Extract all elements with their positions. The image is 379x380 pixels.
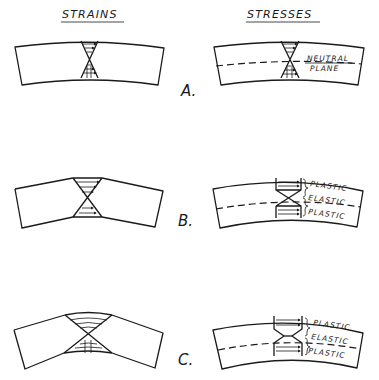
plane-label: PLANE — [310, 64, 339, 73]
row-label-a: A. — [180, 82, 196, 100]
row-a-stresses: NEUTRAL PLANE — [214, 41, 364, 85]
row-b-strains — [15, 178, 163, 228]
row-b-stresses: PLASTIC ELASTIC PLASTIC — [213, 178, 363, 228]
row-label-b: B. — [178, 212, 193, 230]
neutral-label: NEUTRAL — [307, 54, 349, 63]
header-strains: STRAINS — [61, 8, 124, 22]
elastic-label: ELASTIC — [308, 193, 347, 207]
svg-text:STRAINS: STRAINS — [62, 8, 118, 21]
plastic-label-bottom-c: PLASTIC — [308, 346, 347, 360]
plastic-label-top: PLASTIC — [310, 179, 349, 193]
row-c-stresses: PLASTIC ELASTIC PLASTIC — [213, 316, 363, 369]
row-c-strains — [14, 313, 163, 370]
svg-text:STRESSES: STRESSES — [247, 8, 312, 21]
bending-stress-strain-diagram: STRAINS STRESSES A. — [0, 0, 379, 380]
row-label-c: C. — [178, 351, 193, 369]
header-stresses: STRESSES — [246, 8, 320, 22]
plastic-label-bottom: PLASTIC — [308, 207, 347, 221]
plastic-label-top-c: PLASTIC — [313, 318, 352, 332]
row-a-strains — [15, 41, 164, 85]
